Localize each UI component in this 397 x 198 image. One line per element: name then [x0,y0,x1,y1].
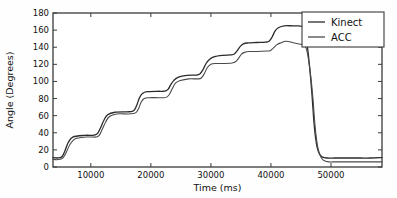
y-tick-label-0: 0 [44,162,49,172]
x-axis-title: Time (ms) [193,182,242,193]
x-tick-label-50000: 50000 [317,170,344,180]
x-tick-label-30000: 30000 [197,170,224,180]
y-tick-label-160: 160 [33,25,49,35]
y-tick-label-120: 120 [33,59,49,69]
x-tick-label-10000: 10000 [77,170,104,180]
x-tick-label-40000: 40000 [257,170,284,180]
x-tick-label-20000: 20000 [137,170,164,180]
chart-legend[interactable]: Kinect ACC [302,12,384,47]
legend-label-kinect: Kinect [331,17,362,28]
legend-label-acc: ACC [331,32,352,43]
y-tick-label-180: 180 [33,8,49,18]
line-chart: 1000020000300004000050000 02040608010012… [0,0,397,198]
chart-figure: 1000020000300004000050000 02040608010012… [0,0,397,198]
y-tick-label-40: 40 [38,128,49,138]
y-tick-label-60: 60 [38,111,49,121]
x-axis-tick-labels: 1000020000300004000050000 [77,170,344,180]
y-tick-label-80: 80 [38,94,49,104]
y-tick-label-140: 140 [33,42,49,52]
y-tick-label-20: 20 [38,145,49,155]
y-axis-title: Angle (Degrees) [4,52,15,129]
y-tick-label-100: 100 [33,76,49,86]
y-axis-tick-labels: 020406080100120140160180 [33,8,49,172]
